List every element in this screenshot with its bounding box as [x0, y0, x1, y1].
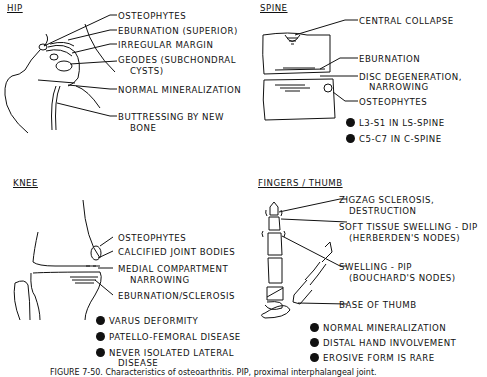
knee-title: KNEE — [13, 178, 38, 188]
spine-label-osteophytes: OSTEOPHYTES — [359, 97, 427, 107]
fingers-bullet-erosive: EROSIVE FORM IS RARE — [310, 353, 435, 363]
hip-label-cysts: CYSTS) — [130, 66, 164, 76]
fingers-label-zigzag: ZIGZAG SCLEROSIS, — [339, 195, 434, 205]
figure-caption: FIGURE 7-50. Characteristics of osteoart… — [50, 368, 377, 377]
knee-label-medial-compartment: MEDIAL COMPARTMENT — [118, 264, 228, 274]
fingers-bullet-mineralization: NORMAL MINERALIZATION — [310, 323, 446, 333]
spine-label-eburnation: EBURNATION — [359, 54, 420, 64]
spine-label-central-collapse: CENTRAL COLLAPSE — [359, 16, 454, 26]
fingers-label-swelling-pip: SWELLING - PIP — [339, 262, 412, 272]
spine-title: SPINE — [260, 3, 288, 13]
fingers-label-destruction: DESTRUCTION — [349, 206, 417, 216]
hip-label-geodes: GEODES (SUBCHONDRAL — [118, 55, 236, 65]
fingers-label-base-of-thumb: BASE OF THUMB — [339, 300, 417, 310]
fingers-title: FINGERS / THUMB — [258, 178, 343, 188]
knee-bullet-varus: VARUS DEFORMITY — [96, 316, 198, 326]
hip-label-eburnation: EBURNATION (SUPERIOR) — [118, 26, 238, 36]
fingers-drawing — [262, 199, 348, 318]
knee-drawing — [14, 200, 113, 320]
hip-title: HIP — [7, 3, 23, 13]
spine-label-narrowing: NARROWING — [369, 82, 429, 92]
hip-label-buttressing: BUTTRESSING BY NEW — [118, 112, 224, 122]
hip-label-bone: BONE — [130, 123, 156, 133]
knee-bullet-disease: DISEASE — [118, 358, 158, 368]
spine-label-disc-degeneration: DISC DEGENERATION, — [359, 72, 462, 82]
fingers-label-bouchard: (BOUCHARD'S NODES) — [349, 273, 456, 283]
knee-bullet-never-isolated: NEVER ISOLATED LATERAL — [96, 348, 234, 358]
knee-label-calcified-bodies: CALCIFIED JOINT BODIES — [118, 247, 235, 257]
knee-label-osteophytes: OSTEOPHYTES — [118, 233, 186, 243]
fingers-label-soft-tissue: SOFT TISSUE SWELLING - DIP — [339, 222, 478, 232]
knee-bullet-patello-femoral: PATELLO-FEMORAL DISEASE — [96, 332, 241, 342]
knee-label-eburnation-sclerosis: EBURNATION/SCLEROSIS — [118, 291, 235, 301]
fingers-bullet-distal-hand: DISTAL HAND INVOLVEMENT — [310, 338, 456, 348]
spine-bullet-c: C5-C7 IN C-SPINE — [346, 134, 442, 144]
spine-drawing — [263, 20, 358, 120]
hip-label-osteophytes: OSTEOPHYTES — [118, 11, 186, 21]
hip-label-normal-mineralization: NORMAL MINERALIZATION — [118, 85, 241, 95]
spine-bullet-ls: L3-S1 IN LS-SPINE — [346, 118, 445, 128]
knee-label-narrowing: NARROWING — [130, 275, 190, 285]
hip-drawing — [5, 15, 117, 133]
fingers-label-herberden: (HERBERDEN'S NODES) — [349, 233, 460, 243]
hip-label-irregular-margin: IRREGULAR MARGIN — [118, 40, 213, 50]
